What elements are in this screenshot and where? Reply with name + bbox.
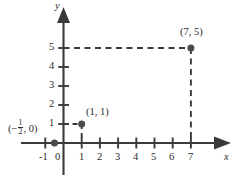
- point-label-neg-half-0: (−12, 0): [8, 119, 37, 135]
- data-point-7-5: [187, 45, 194, 52]
- x-tick-label-0: 0: [55, 152, 60, 163]
- point-label-prefix: (−: [8, 123, 17, 134]
- y-tick-label-3: 3: [49, 80, 54, 91]
- data-point-neg-half-0: [51, 140, 58, 147]
- y-tick-label-1: 1: [49, 118, 54, 129]
- y-tick-label-4: 4: [49, 61, 54, 72]
- x-tick-label--1: -1: [39, 152, 48, 163]
- x-axis-arrowhead: [214, 137, 231, 150]
- y-tick-label-5: 5: [49, 42, 54, 53]
- point-label-1-1: (1, 1): [86, 107, 109, 118]
- y-tick-label-2: 2: [49, 99, 54, 110]
- x-axis-label: x: [224, 152, 229, 163]
- x-tick-label-3: 3: [115, 152, 120, 163]
- x-tick-label-1: 1: [79, 152, 84, 163]
- y-axis-label: y: [55, 1, 60, 12]
- x-tick-label-2: 2: [97, 152, 102, 163]
- data-point-1-1: [78, 121, 85, 128]
- x-tick-label-7: 7: [188, 152, 193, 163]
- x-tick-label-4: 4: [133, 152, 138, 163]
- point-label-7-5: (7, 5): [180, 27, 203, 38]
- x-tick-label-6: 6: [169, 152, 174, 163]
- point-label-suffix: , 0): [23, 123, 37, 134]
- coordinate-plane-figure: y x -1 0 1 2 3 4 5 6 7 1 2 3 4 5 (−12, 0…: [0, 0, 240, 188]
- x-tick-label-5: 5: [151, 152, 156, 163]
